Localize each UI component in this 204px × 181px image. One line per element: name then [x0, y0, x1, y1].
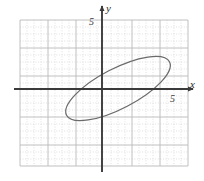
graph-figure: y x 5 5 [0, 0, 204, 181]
y-axis-tick-label-5: 5 [89, 17, 94, 27]
x-axis-tick-label-5: 5 [170, 94, 175, 104]
minor-gridlines [20, 20, 188, 166]
coordinate-plane [0, 0, 204, 181]
y-axis-label: y [106, 3, 111, 14]
x-axis-label: x [190, 79, 195, 90]
major-gridlines [20, 20, 188, 166]
